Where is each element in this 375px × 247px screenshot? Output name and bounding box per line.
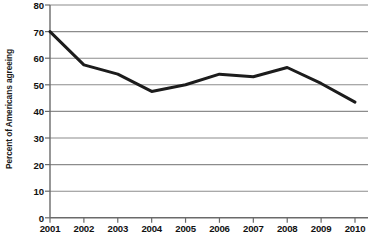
x-axis-tick-label: 2010: [345, 223, 366, 234]
plot-area: [0, 0, 375, 247]
gridlines: [50, 5, 368, 191]
x-axis-tick-label: 2005: [175, 223, 196, 234]
x-axis-tick-label: 2007: [243, 223, 264, 234]
y-axis-ticks: [45, 5, 50, 218]
x-axis-ticks: [50, 218, 355, 223]
x-axis-tick-label: 2008: [277, 223, 298, 234]
x-axis-tick-label: 2003: [107, 223, 128, 234]
x-axis-tick-label: 2009: [311, 223, 332, 234]
line-chart: Percent of Americans agreeing 80 70 60 5…: [0, 0, 375, 247]
data-series-line: [50, 32, 355, 102]
x-axis-tick-label: 2004: [141, 223, 162, 234]
x-axis-tick-label: 2001: [40, 223, 61, 234]
x-axis-tick-label: 2002: [74, 223, 95, 234]
x-axis-tick-label: 2006: [209, 223, 230, 234]
